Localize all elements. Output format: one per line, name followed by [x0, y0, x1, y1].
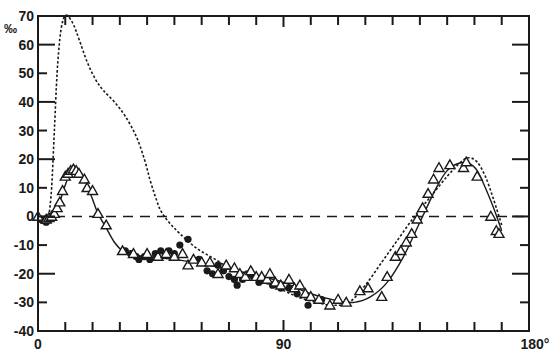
data-point-triangle: [333, 295, 343, 304]
y-tick-label: -40: [14, 323, 34, 339]
data-point-circle: [176, 241, 183, 248]
data-point-circle: [184, 236, 191, 243]
data-point-triangle: [412, 214, 422, 223]
data-point-triangle: [423, 189, 433, 198]
chart: -40-30-20-10010203040506070090180° ‰: [0, 0, 549, 355]
data-point-triangle: [205, 257, 215, 266]
y-tick-label: -30: [14, 294, 34, 310]
data-point-triangle: [363, 283, 373, 292]
plot-area: [33, 15, 529, 309]
data-point-circle: [234, 282, 241, 289]
data-point-triangle: [284, 274, 294, 283]
dotted-theory-curve: [49, 15, 502, 305]
data-point-triangle: [295, 280, 305, 289]
y-tick-label: 0: [26, 208, 34, 224]
data-point-triangle: [55, 197, 65, 206]
data-point-triangle: [265, 269, 275, 278]
data-point-triangle: [178, 249, 188, 258]
y-tick-label: 20: [18, 151, 34, 167]
y-tick-label: 70: [18, 8, 34, 24]
data-point-triangle: [429, 174, 439, 183]
axes: -40-30-20-10010203040506070090180°: [14, 8, 549, 352]
y-tick-label: -10: [14, 237, 34, 253]
y-tick-label: 30: [18, 123, 34, 139]
data-point-triangle: [434, 163, 444, 172]
data-point-triangle: [382, 272, 392, 281]
data-point-triangle: [461, 157, 471, 166]
data-point-triangle: [58, 186, 68, 195]
data-point-triangle: [93, 209, 103, 218]
data-point-circle: [304, 302, 311, 309]
y-tick-label: 10: [18, 180, 34, 196]
y-tick-label: 40: [18, 94, 34, 110]
y-tick-label: 60: [18, 37, 34, 53]
x-tick-label: 180°: [521, 336, 549, 352]
y-unit-label: ‰: [4, 21, 17, 36]
data-point-triangle: [377, 292, 387, 301]
data-point-triangle: [396, 246, 406, 255]
x-tick-label: 90: [276, 336, 292, 352]
data-point-triangle: [401, 237, 411, 246]
x-tick-label: 0: [34, 336, 42, 352]
y-tick-label: 50: [18, 65, 34, 81]
data-point-triangle: [445, 160, 455, 169]
y-tick-label: -20: [14, 266, 34, 282]
